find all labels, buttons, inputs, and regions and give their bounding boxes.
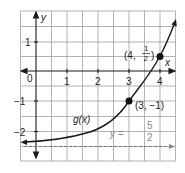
x-tick-3: 3 [126,76,132,87]
x-tick-4: 4 [157,76,163,87]
x-tick-1: 1 [64,76,70,87]
x-tick-2: 2 [95,76,101,87]
point-a-label-suffix: ) [151,50,154,61]
x-axis-label: x [164,57,171,68]
y-tick-1: 1 [25,37,31,48]
y-tick-neg1: −1 [14,96,26,107]
curve-arrow-right [172,19,177,27]
asymptote-label-num: 5 [147,120,153,131]
y-tick-neg2: −2 [14,127,26,138]
asymptote-label-prefix: y = [109,128,124,139]
curve-arrow-left [21,139,28,145]
point-a-label-prefix: (4, [124,50,136,61]
y-axis [34,12,39,158]
point-a-label-num: 1 [144,44,149,53]
asymptote-label-den: 2 [147,132,153,143]
graph: y x 0 1 2 3 4 1 −1 −2 g(x) (4, 1 2 ) (3,… [0,0,185,173]
origin-label: 0 [27,73,33,84]
point-b-label: (3, −1) [135,100,164,111]
y-axis-label: y [40,12,47,23]
point-4-half [157,53,164,60]
point-3-neg1 [126,98,133,105]
point-a-label-den: 2 [144,54,149,63]
curve-label: g(x) [73,114,90,125]
